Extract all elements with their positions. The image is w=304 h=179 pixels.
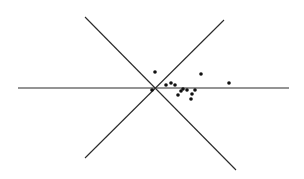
data-point [176,93,180,97]
data-point [185,88,189,92]
data-point [169,81,173,85]
lines-group [18,17,289,170]
data-point [227,81,231,85]
points-group [150,70,231,101]
data-point [190,92,194,96]
diagram-canvas [0,0,304,179]
data-point [189,97,193,101]
data-point [173,83,177,87]
data-point [199,72,203,76]
diagonal-line-down [85,17,236,170]
data-point [193,88,197,92]
data-point [181,87,185,91]
data-point [150,88,154,92]
data-point [164,83,168,87]
data-point [153,70,157,74]
